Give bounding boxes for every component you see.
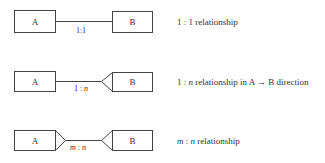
entity-a-label-row2: A — [32, 77, 39, 87]
description-row1: 1 : 1 relationship — [177, 17, 238, 27]
description-ratio-left: 1 : — [177, 77, 189, 87]
entity-b-label-row1: B — [129, 17, 135, 27]
entity-a-label-row3: A — [32, 136, 39, 146]
cardinality-label-row2: 1 : n — [74, 84, 88, 93]
entity-b-label-row2: B — [129, 77, 135, 87]
description-text: relationship — [195, 136, 240, 146]
cardinality-label-row1: 1:1 — [76, 26, 86, 35]
description-row3: m : n relationship — [177, 136, 240, 146]
crows-foot-b-row2 — [102, 73, 113, 92]
description-ratio-sep: : — [184, 136, 191, 146]
description-text: relationship — [193, 17, 238, 27]
entity-a-label-row1: A — [32, 17, 39, 27]
crows-foot-b-row3 — [102, 131, 113, 151]
entity-b-label-row3: B — [129, 136, 135, 146]
cardinality-label-row3: m : n — [70, 143, 86, 152]
description-row2: 1 : n relationship in A → B direction — [177, 77, 309, 87]
description-text: relationship in A → B direction — [193, 77, 309, 87]
description-ratio: 1 : 1 — [177, 17, 193, 27]
crows-foot-a-row3 — [56, 131, 66, 151]
